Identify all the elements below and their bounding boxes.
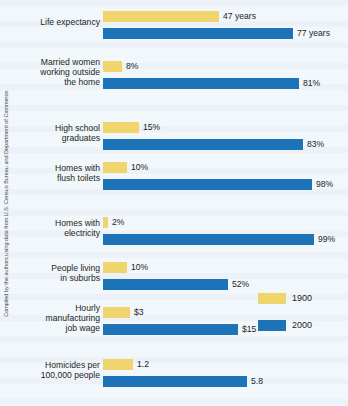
bar-1900 bbox=[103, 122, 139, 133]
bar-row: 10% bbox=[103, 162, 348, 173]
source-credit: Compiled by the authors using data from … bbox=[0, 0, 14, 406]
category-label-line: Married women bbox=[14, 57, 100, 67]
bar-row: 15% bbox=[103, 122, 348, 133]
bar-row: 10% bbox=[103, 262, 348, 273]
category-label-line: Homes with bbox=[14, 163, 100, 173]
bar-value-1900: 2% bbox=[112, 217, 124, 229]
category-label: High schoolgraduates bbox=[14, 123, 100, 143]
bar-row: 5.8 bbox=[103, 376, 348, 387]
legend-yellow-swatch-icon bbox=[258, 293, 286, 304]
bar-value-2000: 5.8 bbox=[251, 376, 263, 388]
legend-label-1900: 1900 bbox=[292, 292, 312, 305]
source-credit-text: Compiled by the authors using data from … bbox=[3, 89, 9, 317]
bar-value-2000: $15 bbox=[242, 324, 256, 336]
category-label: Married womenworking outsidethe home bbox=[14, 57, 100, 88]
bar-value-2000: 99% bbox=[318, 234, 335, 246]
category-label-line: Life expectancy bbox=[14, 17, 100, 27]
legend-blue-swatch-icon bbox=[258, 320, 286, 331]
bar-1900 bbox=[103, 217, 108, 228]
bar-value-1900: 15% bbox=[143, 122, 160, 134]
bar-value-1900: 10% bbox=[131, 162, 148, 174]
category-label: Homes withflush toilets bbox=[14, 163, 100, 183]
bar-1900 bbox=[103, 307, 130, 318]
legend-item-1900: 1900 bbox=[258, 292, 342, 306]
bar-row: 77 years bbox=[103, 28, 348, 39]
category-label: People livingin suburbs bbox=[14, 263, 100, 283]
category-label: Hourlymanufacturingjob wage bbox=[14, 303, 100, 334]
bar-value-1900: 10% bbox=[131, 262, 148, 274]
category-label-line: the home bbox=[14, 77, 100, 87]
chart-legend: 1900 2000 bbox=[258, 292, 342, 346]
bar-2000 bbox=[103, 139, 303, 150]
legend-label-2000: 2000 bbox=[292, 319, 312, 332]
bar-2000 bbox=[103, 324, 238, 335]
category-label-line: Homes with bbox=[14, 218, 100, 228]
category-label-line: High school bbox=[14, 123, 100, 133]
bar-value-1900: 1.2 bbox=[137, 359, 149, 371]
bar-value-2000: 81% bbox=[303, 78, 320, 90]
bar-row: 81% bbox=[103, 78, 348, 89]
legend-item-2000: 2000 bbox=[258, 319, 342, 333]
category-label-line: manufacturing bbox=[14, 313, 100, 323]
bar-2000 bbox=[103, 78, 299, 89]
category-label: Life expectancy bbox=[14, 17, 100, 27]
category-label-line: job wage bbox=[14, 323, 100, 333]
bar-2000 bbox=[103, 179, 312, 190]
category-label-line: working outside bbox=[14, 67, 100, 77]
bar-value-2000: 77 years bbox=[297, 28, 330, 40]
bar-1900 bbox=[103, 61, 122, 72]
category-label-line: Hourly bbox=[14, 303, 100, 313]
category-label-line: Homicides per bbox=[14, 360, 100, 370]
bar-row: 52% bbox=[103, 279, 348, 290]
bar-row: 99% bbox=[103, 234, 348, 245]
category-label: Homes withelectricity bbox=[14, 218, 100, 238]
bar-row: 47 years bbox=[103, 11, 348, 22]
category-label-line: flush toilets bbox=[14, 173, 100, 183]
bar-2000 bbox=[103, 279, 228, 290]
bar-2000 bbox=[103, 28, 293, 39]
category-label-line: in suburbs bbox=[14, 273, 100, 283]
bar-2000 bbox=[103, 376, 247, 387]
category-label: Homicides per100,000 people bbox=[14, 360, 100, 380]
bar-row: 83% bbox=[103, 139, 348, 150]
bar-value-2000: 98% bbox=[316, 179, 333, 191]
bar-value-2000: 52% bbox=[232, 279, 249, 291]
category-label-line: People living bbox=[14, 263, 100, 273]
bar-value-1900: $3 bbox=[134, 307, 144, 319]
bar-1900 bbox=[103, 11, 219, 22]
bar-value-2000: 83% bbox=[307, 139, 324, 151]
bar-1900 bbox=[103, 359, 133, 370]
bar-1900 bbox=[103, 262, 127, 273]
comparison-bar-chart: Compiled by the authors using data from … bbox=[0, 0, 348, 406]
bar-2000 bbox=[103, 234, 314, 245]
bar-row: 8% bbox=[103, 61, 348, 72]
category-label-line: 100,000 people bbox=[14, 370, 100, 380]
bar-row: 2% bbox=[103, 217, 348, 228]
category-label-line: graduates bbox=[14, 133, 100, 143]
bar-1900 bbox=[103, 162, 127, 173]
bar-value-1900: 8% bbox=[126, 61, 138, 73]
bar-value-1900: 47 years bbox=[223, 11, 256, 23]
category-label-line: electricity bbox=[14, 228, 100, 238]
bar-row: 1.2 bbox=[103, 359, 348, 370]
bar-row: 98% bbox=[103, 179, 348, 190]
